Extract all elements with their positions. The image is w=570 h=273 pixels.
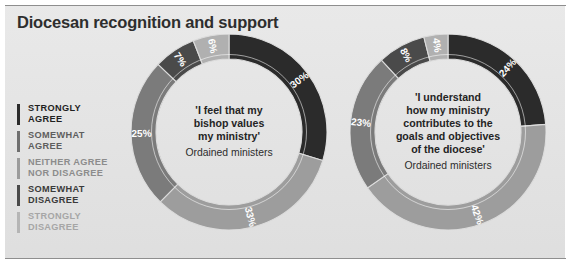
legend-swatch (17, 185, 20, 206)
legend-swatch (17, 158, 20, 179)
donut-title-line: contributes to the (350, 117, 546, 130)
legend-item[interactable]: STRONGLY AGREE (17, 103, 125, 125)
donut-title-line: 'I understand (350, 91, 546, 104)
legend-item[interactable]: SOMEWHAT DISAGREE (17, 184, 125, 206)
donut-chart-ministry-contributes: 24%42%23%8%4%'I understandhow my ministr… (350, 34, 546, 230)
donut-subtitle: Ordained ministers (350, 159, 546, 173)
legend: STRONGLY AGREESOMEWHAT AGREENEITHER AGRE… (17, 103, 125, 238)
chart-panel: Diocesan recognition and support STRONGL… (0, 0, 570, 273)
donut-title-line: goals and objectives (350, 130, 546, 143)
legend-item[interactable]: NEITHER AGREE NOR DISAGREE (17, 157, 125, 179)
panel-edge-bottom (0, 259, 570, 273)
donut-segment[interactable] (160, 153, 323, 230)
legend-item-label: SOMEWHAT DISAGREE (28, 184, 85, 206)
divider-bottom (5, 258, 566, 259)
legend-item-label: NEITHER AGREE NOR DISAGREE (28, 157, 108, 179)
divider-top (5, 5, 566, 6)
legend-item[interactable]: STRONGLY DISAGREE (17, 211, 125, 233)
donut-center-text: 'I understandhow my ministrycontributes … (350, 91, 546, 173)
panel-edge-right (565, 0, 570, 273)
legend-swatch (17, 212, 20, 233)
legend-item-label: STRONGLY AGREE (28, 103, 81, 125)
donut-segment-label: 4% (431, 37, 444, 53)
page-title: Diocesan recognition and support (17, 13, 278, 32)
donut-chart-bishop-values-ministry: 30%33%25%7%6%'I feel that mybishop value… (131, 34, 327, 230)
panel-edge-left (0, 0, 5, 273)
donut-title-line: bishop values (131, 117, 327, 130)
legend-item-label: STRONGLY DISAGREE (28, 211, 81, 233)
donut-center-text: 'I feel that mybishop valuesmy ministry'… (131, 104, 327, 160)
donut-title-line: my ministry' (131, 130, 327, 143)
legend-swatch (17, 131, 20, 152)
donut-title-line: 'I feel that my (131, 104, 327, 117)
legend-item[interactable]: SOMEWHAT AGREE (17, 130, 125, 152)
donut-title-line: of the diocese' (350, 143, 546, 156)
legend-swatch (17, 104, 20, 125)
legend-item-label: SOMEWHAT AGREE (28, 130, 85, 152)
donut-title-line: how my ministry (350, 104, 546, 117)
donut-subtitle: Ordained ministers (131, 146, 327, 160)
